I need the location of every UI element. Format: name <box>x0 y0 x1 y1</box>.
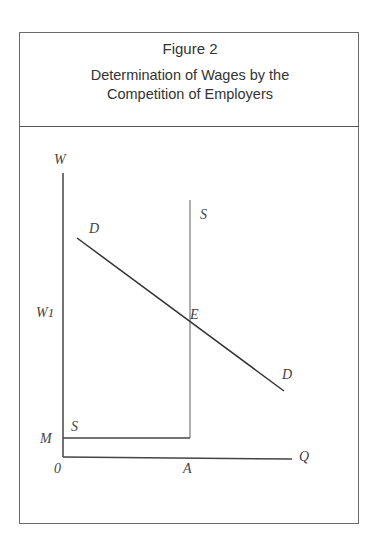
m-label: M <box>40 431 52 447</box>
demand-curve <box>77 238 284 391</box>
q-axis-label: Q <box>299 449 309 465</box>
w-axis-label: W <box>54 152 66 168</box>
w1-label-sub: 1 <box>48 305 55 320</box>
origin-label: 0 <box>54 461 61 477</box>
d-top-label: D <box>89 221 99 237</box>
d-bottom-label: D <box>282 367 292 383</box>
q-axis <box>63 457 292 459</box>
w1-label-main: W <box>36 305 48 320</box>
s-bottom-label: S <box>71 419 78 435</box>
w1-label: W1 <box>36 305 54 321</box>
a-label: A <box>183 461 192 477</box>
s-top-label: S <box>200 207 207 223</box>
e-label: E <box>190 307 199 323</box>
